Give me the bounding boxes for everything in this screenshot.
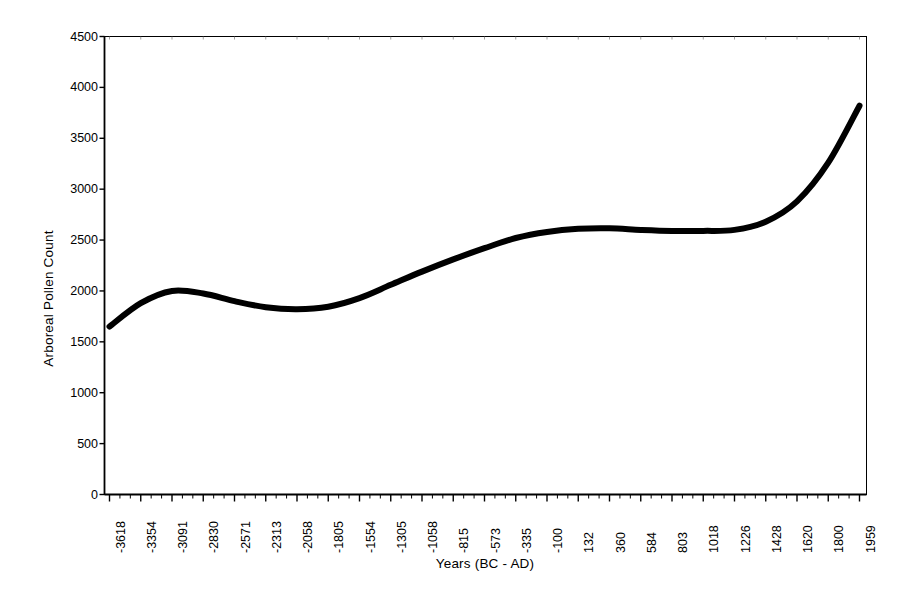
x-tick-label: -1305 [396, 521, 408, 553]
x-tick-label: 803 [677, 532, 689, 553]
x-tick-label: 1018 [708, 525, 720, 553]
x-tick-label: -3618 [115, 521, 127, 553]
x-tick-label: -1058 [427, 521, 439, 553]
x-tick-label: -2830 [208, 521, 220, 553]
x-tick-label: 584 [646, 532, 658, 553]
x-tick-label: 1428 [771, 525, 783, 553]
x-tick-label: 132 [583, 532, 595, 553]
x-tick-label: -2313 [271, 521, 283, 553]
x-tick-label: -1554 [365, 521, 377, 553]
x-tick-label: -3091 [177, 521, 189, 553]
x-axis-title: Years (BC - AD) [104, 556, 866, 571]
x-tick-label: 1620 [802, 525, 814, 553]
x-tick-label: -3354 [146, 521, 158, 553]
x-tick-label: -2058 [302, 521, 314, 553]
x-tick-label: -573 [490, 528, 502, 553]
x-tick-label: -335 [521, 528, 533, 553]
x-axis-tick-labels: -3618-3354-3091-2830-2571-2313-2058-1805… [0, 0, 897, 597]
x-tick-label: -100 [552, 528, 564, 553]
x-tick-label: 1226 [740, 525, 752, 553]
x-tick-label: -2571 [240, 521, 252, 553]
x-tick-label: 1959 [865, 525, 877, 553]
x-tick-label: 360 [615, 532, 627, 553]
chart-page: Arboreal Pollen Count 050010001500200025… [0, 0, 897, 597]
x-tick-label: -815 [458, 528, 470, 553]
x-tick-label: -1805 [333, 521, 345, 553]
x-tick-label: 1800 [833, 525, 845, 553]
